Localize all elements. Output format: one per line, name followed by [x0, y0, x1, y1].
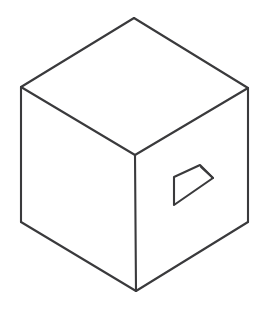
- isometric-cube-drawing: Isometric Cube With Recessed Quadrilater…: [0, 0, 267, 317]
- front-vertical-edge: [135, 155, 136, 291]
- figure-root: Isometric Cube With Recessed Quadrilater…: [0, 0, 267, 317]
